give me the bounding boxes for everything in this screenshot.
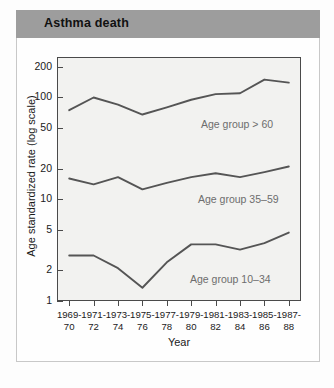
y-axis-label: Age standardized rate (log scale): [25, 81, 37, 271]
x-tick-label-top: 1987-: [267, 309, 311, 321]
series-annotation-over-60: Age group > 60: [201, 118, 273, 130]
x-tick-mark: [142, 301, 143, 306]
x-tick-mark: [118, 301, 119, 306]
x-tick-mark: [264, 301, 265, 306]
x-tick-mark: [94, 301, 95, 306]
x-tick-mark: [167, 301, 168, 306]
x-tick-mark: [69, 301, 70, 306]
x-tick-mark: [216, 301, 217, 306]
y-tick-label: 200: [10, 60, 52, 72]
y-tick-label: 1: [10, 294, 52, 306]
figure-title-bar: Asthma death: [16, 10, 320, 38]
series-line-1: [69, 166, 289, 189]
x-tick-label: 1987-88: [267, 309, 311, 332]
x-tick-mark: [240, 301, 241, 306]
x-tick-label-bottom: 88: [267, 321, 311, 333]
series-line-0: [69, 80, 289, 115]
chart-lines: [57, 57, 301, 301]
figure-title: Asthma death: [44, 16, 129, 30]
series-annotation-10-34: Age group 10–34: [190, 273, 271, 285]
series-annotation-35-59: Age group 35–59: [198, 193, 279, 205]
y-tick-mark: [57, 301, 63, 302]
x-tick-mark: [191, 301, 192, 306]
asthma-death-figure: Asthma death 200100502010521 Age standar…: [0, 0, 334, 388]
x-axis-label: Year: [57, 336, 301, 348]
x-tick-mark: [289, 301, 290, 306]
